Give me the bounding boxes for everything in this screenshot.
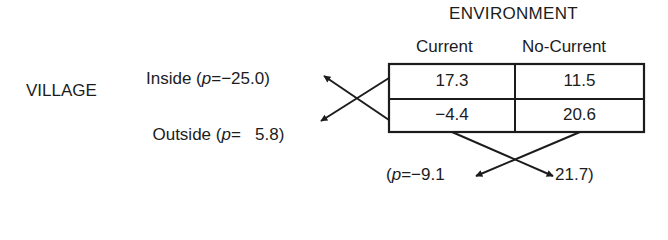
cell-outside-current: −4.4 — [389, 105, 515, 125]
cell-inside-current: 17.3 — [389, 71, 515, 91]
arrow-current-to-outside — [321, 78, 389, 121]
current-effect-value: =−9.1 — [401, 165, 445, 184]
arrow-to-no-current-effect — [452, 132, 553, 176]
column-effect-current: (p=−9.1 — [386, 165, 445, 185]
cell-outside-no-current: 20.6 — [515, 105, 644, 125]
column-effect-no-current: 21.7) — [555, 165, 594, 185]
p-symbol: p — [392, 165, 401, 184]
cell-inside-no-current: 11.5 — [515, 71, 644, 91]
